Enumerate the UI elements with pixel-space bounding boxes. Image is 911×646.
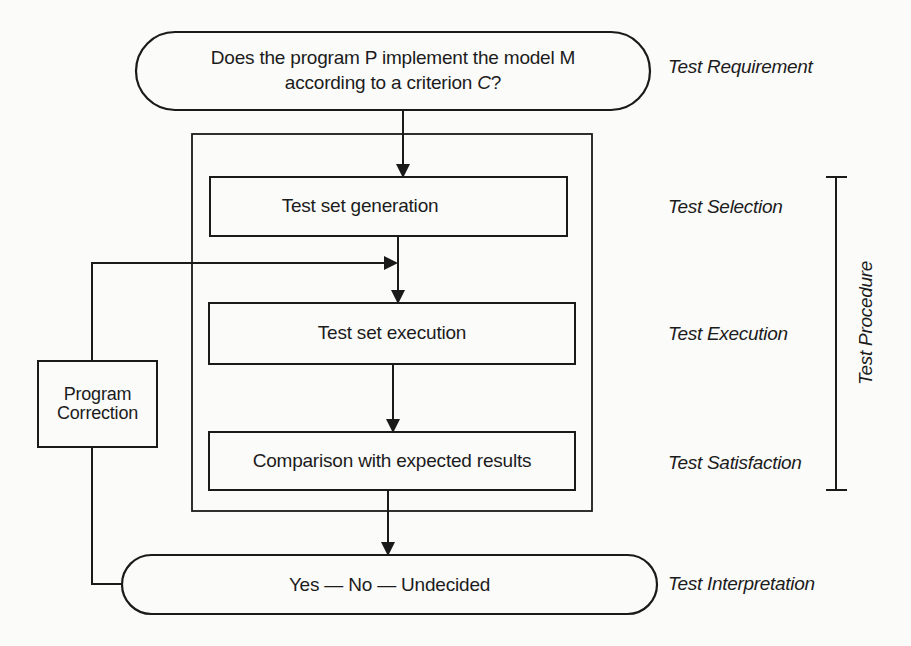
interpretation-label: Yes — No — Undecided <box>122 572 657 597</box>
stage-label-selection: Test Selection <box>668 196 782 218</box>
requirement-line-2-suffix: ? <box>491 72 501 93</box>
correction-label: Program Correction <box>38 385 157 423</box>
requirement-line-2-prefix: according to a criterion <box>285 72 478 93</box>
generation-label: Test set generation <box>210 193 510 218</box>
line-interpretation-to-correction <box>92 447 122 584</box>
stage-label-interpretation: Test Interpretation <box>668 573 815 595</box>
diagram-canvas: Does the program P implement the model M… <box>0 0 911 646</box>
requirement-line-2: according to a criterion C? <box>136 70 650 95</box>
requirement-line-1: Does the program P implement the model M <box>136 45 650 70</box>
stage-label-satisfaction: Test Satisfaction <box>668 452 802 474</box>
comparison-label: Comparison with expected results <box>209 448 575 473</box>
arrow-correction-to-execution <box>92 263 396 361</box>
correction-line-2: Correction <box>38 404 157 423</box>
criterion-variable: C <box>477 72 491 93</box>
requirement-question: Does the program P implement the model M… <box>136 45 650 95</box>
execution-label: Test set execution <box>209 320 575 345</box>
correction-line-1: Program <box>38 385 157 404</box>
stage-label-execution: Test Execution <box>668 323 788 345</box>
stage-label-requirement: Test Requirement <box>668 56 812 78</box>
stage-label-procedure: Test Procedure <box>855 261 877 385</box>
